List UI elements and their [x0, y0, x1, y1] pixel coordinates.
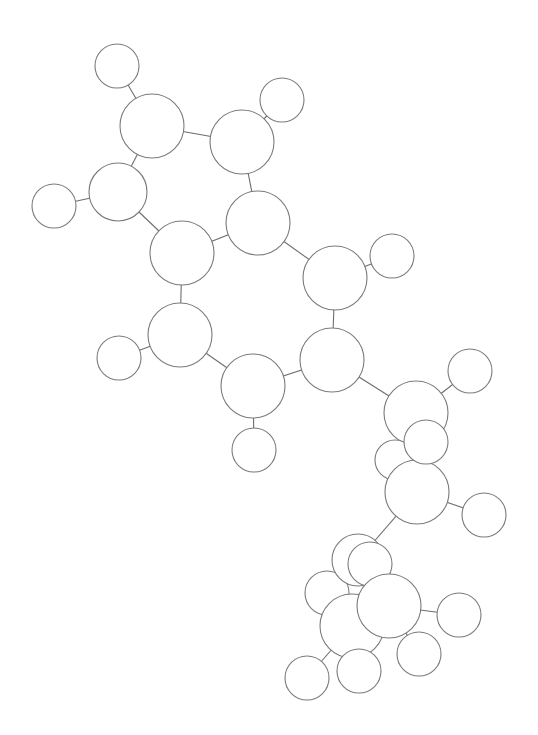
molecule-svg [0, 0, 538, 735]
atoms-layer [32, 44, 506, 700]
atom-circle [337, 649, 381, 693]
atom-circle [385, 460, 449, 524]
atom-circle [148, 303, 212, 367]
atom-circle [232, 428, 276, 472]
atom-circle [437, 593, 481, 637]
atom-circle [303, 246, 367, 310]
atom-circle [210, 110, 274, 174]
atom-circle [448, 349, 492, 393]
atom-circle [221, 354, 285, 418]
atom-circle [404, 420, 448, 464]
atom-circle [32, 184, 76, 228]
atom-circle [226, 191, 290, 255]
atom-circle [95, 44, 139, 88]
atom-circle [89, 163, 147, 221]
atom-circle [370, 234, 414, 278]
atom-circle [260, 78, 304, 122]
atom-circle [120, 94, 184, 158]
atom-circle [150, 221, 214, 285]
atom-circle [357, 574, 421, 638]
atom-circle [285, 656, 329, 700]
molecule-diagram [0, 0, 538, 735]
atom-circle [462, 493, 506, 537]
atom-circle [397, 632, 441, 676]
atom-circle [97, 336, 141, 380]
atom-circle [300, 328, 364, 392]
